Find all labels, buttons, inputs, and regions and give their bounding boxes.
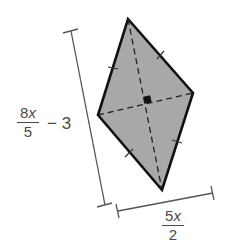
label-horizontal-diagonal-fraction: 5x 2 xyxy=(162,208,184,243)
fraction-numerator: 5x xyxy=(165,208,181,224)
fraction-denominator: 5 xyxy=(24,124,32,140)
numerator-variable: x xyxy=(173,207,181,224)
rhombus-shape xyxy=(98,19,193,190)
fraction-denominator: 2 xyxy=(169,227,177,243)
label-vertical-diagonal-suffix: − 3 xyxy=(47,114,71,134)
label-vertical-diagonal-fraction: 8x 5 xyxy=(17,105,39,140)
right-angle-marker xyxy=(143,95,151,103)
fraction-numerator: 8x xyxy=(20,105,36,121)
numerator-variable: x xyxy=(28,104,36,121)
